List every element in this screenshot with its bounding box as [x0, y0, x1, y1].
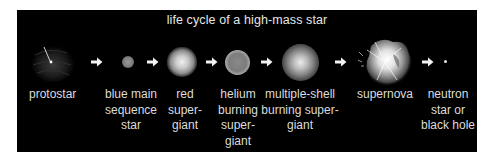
- stage-label-multiple-shell-burning-supergiant: multiple-shell burning super- giant: [260, 87, 340, 134]
- protostar-image: [29, 41, 75, 83]
- right-arrow-icon: [335, 57, 347, 67]
- right-arrow-icon: [422, 57, 434, 67]
- helium-burning-supergiant-image: [225, 50, 250, 75]
- stage-label-blue-main-sequence-star: blue main sequence star: [102, 87, 160, 134]
- right-arrow-icon: [147, 57, 159, 67]
- stage-label-protostar: protostar: [29, 87, 75, 103]
- stage-label-helium-burning-supergiant: helium burning super- giant: [217, 87, 259, 149]
- stage-label-neutron-star-or-black-hole: neutron star or black hole: [419, 87, 477, 134]
- stage-label-red-supergiant: red super- giant: [164, 87, 206, 134]
- stage-label-supernova: supernova: [354, 87, 416, 103]
- diagram-title: life cycle of a high-mass star: [17, 13, 477, 27]
- right-arrow-icon: [206, 57, 218, 67]
- right-arrow-icon: [261, 57, 273, 67]
- neutron-star-image: [444, 60, 447, 63]
- red-supergiant-image: [167, 47, 197, 77]
- blue-main-sequence-star-image: [122, 56, 134, 68]
- multiple-shell-burning-supergiant-image: [282, 44, 319, 81]
- supernova-image: [357, 36, 417, 94]
- right-arrow-icon: [91, 57, 103, 67]
- diagram-panel: life cycle of a high-mass star: [17, 10, 477, 152]
